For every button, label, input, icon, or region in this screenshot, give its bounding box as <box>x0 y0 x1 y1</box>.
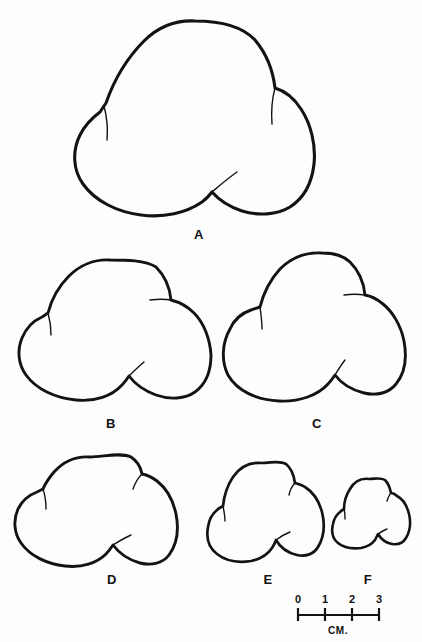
specimen-f-suture-right <box>387 493 391 501</box>
specimen-e-group <box>207 462 323 562</box>
specimen-c-shape <box>223 253 405 401</box>
specimen-d-suture-right <box>133 474 142 489</box>
specimen-b-outline <box>19 260 211 400</box>
specimen-b-suture-right <box>150 299 171 300</box>
scale-label-0: 0 <box>295 593 301 605</box>
specimen-label-e: E <box>263 572 272 587</box>
scale-label-3: 3 <box>376 593 382 605</box>
specimen-d-suture-bottom <box>113 535 131 545</box>
specimen-e-suture-left <box>223 506 225 521</box>
specimen-d-suture-left <box>43 489 46 509</box>
specimen-f-group <box>332 478 410 548</box>
specimen-c-suture-right <box>344 294 365 295</box>
specimen-c-outline-final <box>223 253 405 401</box>
figure-plate: A B C D E F 0 1 2 3 CM. <box>0 0 422 642</box>
specimen-f-suture-bottom <box>378 529 387 534</box>
specimen-e-shape <box>207 462 323 562</box>
specimen-label-d: D <box>107 572 117 587</box>
specimen-c-suture-left <box>260 307 262 329</box>
specimen-b-group <box>19 260 211 400</box>
specimen-f-outline <box>332 478 410 548</box>
specimen-a-suture-left <box>104 106 107 140</box>
specimen-a-suture-right <box>272 88 275 124</box>
specimen-a-group <box>75 21 315 216</box>
specimen-a-outline <box>75 21 315 216</box>
specimen-label-c: C <box>312 416 322 431</box>
specimen-e-suture-right <box>289 483 295 495</box>
specimen-d-outline <box>15 455 177 567</box>
scale-label-2: 2 <box>349 593 355 605</box>
specimen-a-suture-bottom <box>212 172 237 192</box>
scale-bar-group <box>298 608 379 621</box>
scale-unit-label: CM. <box>328 625 348 636</box>
specimen-b-suture-bottom <box>129 362 144 376</box>
specimen-d-group <box>15 455 177 567</box>
scale-label-1: 1 <box>322 593 328 605</box>
specimen-label-f: F <box>364 572 372 587</box>
specimen-f-suture-left <box>344 509 345 519</box>
specimen-c-suture-bottom <box>335 360 345 375</box>
specimen-b-suture-left <box>48 313 51 335</box>
specimen-outline-drawing <box>0 0 422 642</box>
specimen-e-suture-bottom <box>276 532 290 540</box>
specimen-label-a: A <box>194 227 204 242</box>
specimen-label-b: B <box>106 416 116 431</box>
